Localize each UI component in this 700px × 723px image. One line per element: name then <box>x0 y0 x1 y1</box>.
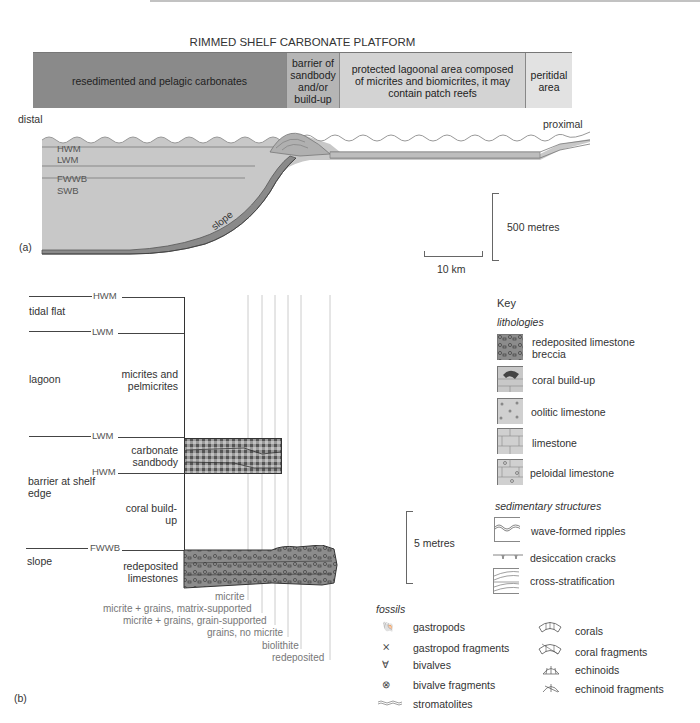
sandbody-bed <box>184 438 284 476</box>
level-line <box>29 296 92 297</box>
breccia-swatch-icon <box>497 334 523 360</box>
env-lagoon: lagoon <box>29 373 61 385</box>
texture-grains-no-micrite: grains, no micrite <box>207 627 283 638</box>
fossils-heading: fossils <box>376 603 405 615</box>
five-metre-scale-bar <box>406 511 413 584</box>
level-line <box>118 437 184 438</box>
platform-cross-section <box>0 130 700 270</box>
level-line <box>29 331 91 332</box>
facies-coral: coral build-up <box>125 502 177 526</box>
env-slope: slope <box>27 555 52 567</box>
fossil-corals-label: corals <box>575 625 603 637</box>
level-hwm: HWM <box>93 290 117 301</box>
env-tidal-flat: tidal flat <box>29 305 65 317</box>
level-line <box>122 297 184 298</box>
level-line <box>118 473 184 474</box>
five-metre-label: 5 metres <box>414 537 455 549</box>
page-top-rule <box>150 0 700 2</box>
zone-label: resedimented and pelagic carbonates <box>72 75 247 87</box>
horizontal-scale-bar <box>424 251 483 257</box>
bivalve-fragment-icon: ⊗ <box>382 679 390 690</box>
coral-buildup-swatch-icon <box>497 366 523 392</box>
oolitic-swatch-icon <box>497 398 523 424</box>
distal-label: distal <box>18 113 43 125</box>
fossil-stromatolites-label: stromatolites <box>413 698 473 710</box>
cross-stratification-icon <box>493 568 519 594</box>
vertical-scale-bar <box>492 193 499 261</box>
platform-title-bar: RIMMED SHELF CARBONATE PLATFORM <box>33 31 572 53</box>
echinoid-fragment-icon <box>542 683 560 693</box>
level-line <box>29 436 91 437</box>
level-lwm: LWM <box>92 326 113 337</box>
hwm-label: HWM <box>57 143 81 154</box>
platform-title-text: RIMMED SHELF CARBONATE PLATFORM <box>190 36 416 48</box>
zone-resedimented-cell: resedimented and pelagic carbonates <box>33 53 287 108</box>
level-lwm-2: LWM <box>92 430 113 441</box>
structure-ripples-label: wave-formed ripples <box>531 525 626 537</box>
ripples-icon <box>494 517 520 543</box>
zone-label: peritidal area <box>530 69 568 93</box>
facies-micrites: micrites and pelmicrites <box>110 368 178 392</box>
lithology-peloidal-label: peloidal limestone <box>530 467 614 479</box>
fossil-echinoid-fragments-label: echinoid fragments <box>575 683 664 695</box>
peloidal-swatch-icon <box>497 459 523 485</box>
lithology-breccia-label: redeposited limestone breccia <box>532 336 642 360</box>
panel-a-label: (a) <box>19 241 32 253</box>
gastropod-icon: 🐚 <box>382 621 394 632</box>
lithology-coral-label: coral build-up <box>532 374 595 386</box>
level-line <box>118 333 184 334</box>
zone-row: resedimented and pelagic carbonates barr… <box>33 53 572 108</box>
lithology-oolitic-label: oolitic limestone <box>531 406 606 418</box>
lithology-limestone-label: limestone <box>532 437 577 449</box>
env-barrier: barrier at shelf edge <box>28 475 98 499</box>
lithology-label: redeposited limestone breccia <box>532 336 642 360</box>
redeposited-bed <box>182 545 342 590</box>
proximal-label: proximal <box>543 118 583 130</box>
texture-grain-supported: micrite + grains, grain-supported <box>123 615 267 626</box>
zone-peritidal-cell: peritidal area <box>526 53 572 108</box>
key-title: Key <box>497 297 516 309</box>
fossil-bivalves-label: bivalves <box>413 659 451 671</box>
lithologies-heading: lithologies <box>497 316 544 328</box>
texture-micrite: micrite <box>215 591 244 602</box>
facies-sandbody: carbonate sandbody <box>118 444 178 468</box>
coral-icon <box>538 621 562 633</box>
level-line <box>26 548 88 549</box>
horizontal-scale-label: 10 km <box>437 263 466 275</box>
stromatolite-icon <box>378 700 404 706</box>
fossil-bivalve-fragments-label: bivalve fragments <box>413 679 495 691</box>
zone-lagoon-cell: protected lagoonal area composed of micr… <box>340 53 526 108</box>
echinoid-icon <box>542 665 560 675</box>
level-fwwb: FWWB <box>90 542 120 553</box>
panel-b-label: (b) <box>14 692 27 704</box>
lwm-label: LWM <box>57 154 78 165</box>
zone-barrier-cell: barrier of sandbody and/or build-up <box>287 53 340 108</box>
facies-redeposited: redeposited limestones <box>100 560 178 584</box>
texture-matrix-supported: micrite + grains, matrix-supported <box>103 603 252 614</box>
swb-label: SWB <box>57 185 79 196</box>
texture-biolithite: biolithite <box>262 640 299 651</box>
texture-redeposited: redeposited <box>272 652 324 663</box>
desiccation-cracks-icon <box>493 552 523 562</box>
zone-label: barrier of sandbody and/or build-up <box>290 57 336 105</box>
zone-label: protected lagoonal area composed of micr… <box>350 63 515 99</box>
fossil-gastropods-label: gastropods <box>413 621 465 633</box>
fossil-coral-fragments-label: coral fragments <box>575 646 647 658</box>
structures-heading: sedimentary structures <box>495 500 601 512</box>
structure-desiccation-label: desiccation cracks <box>530 552 616 564</box>
fossil-gastropod-fragments-label: gastropod fragments <box>413 642 509 654</box>
coral-fragment-icon <box>538 643 562 655</box>
limestone-swatch-icon <box>497 428 523 454</box>
structure-cross-strat-label: cross-stratification <box>530 575 615 587</box>
bivalve-icon: ∀ <box>382 659 389 670</box>
fossil-echinoids-label: echinoids <box>575 664 619 676</box>
level-line <box>122 550 184 551</box>
fwwb-label: FWWB <box>57 173 87 184</box>
gastropod-fragment-icon: ⨯ <box>382 641 390 652</box>
vertical-scale-label: 500 metres <box>507 221 560 233</box>
